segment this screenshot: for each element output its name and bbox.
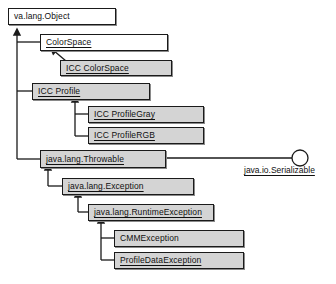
class-box-icc-profilergb[interactable]: ICC ProfileRGB	[88, 127, 204, 144]
class-name-icc-profilegray: ICC ProfileGray	[94, 110, 155, 119]
class-diagram-canvas: va.lang.Object ColorSpace ICC ColorSpace…	[0, 0, 336, 284]
generalization-icc-profile-children	[75, 99, 88, 136]
class-name-java-lang-throwable: java.lang.Throwable	[46, 155, 124, 164]
interface-name-java-io-serializable: java.io.Serializable	[244, 165, 315, 175]
class-name-java-lang-exception: java.lang.Exception	[68, 182, 144, 191]
class-box-cmmexception[interactable]: CMMException	[114, 230, 244, 247]
class-box-icc-profile[interactable]: ICC Profile	[32, 83, 150, 100]
class-name-cmmexception: CMMException	[120, 234, 179, 243]
class-name-java-lang-runtimeexception: java.lang.RuntimeException	[94, 208, 202, 217]
class-name-colorspace: ColorSpace	[46, 38, 91, 47]
class-name-profiledataexception: ProfileDataException	[120, 256, 201, 265]
class-name-java-lang-object: va.lang.Object	[14, 12, 70, 21]
class-name-icc-colorspace: ICC ColorSpace	[66, 64, 129, 73]
class-box-java-lang-exception[interactable]: java.lang.Exception	[62, 178, 194, 195]
class-name-icc-profile: ICC Profile	[38, 87, 80, 96]
generalization-exception-to-throwable	[48, 167, 62, 186]
generalization-runtimeexception-children	[101, 220, 114, 260]
class-box-java-lang-throwable[interactable]: java.lang.Throwable	[40, 150, 166, 168]
class-box-icc-profilegray[interactable]: ICC ProfileGray	[88, 106, 204, 123]
class-box-profiledataexception[interactable]: ProfileDataException	[114, 252, 244, 269]
class-box-java-lang-object[interactable]: va.lang.Object	[8, 8, 116, 25]
class-name-icc-profilergb: ICC ProfileRGB	[94, 131, 155, 140]
interface-realization-serializable	[166, 150, 308, 166]
class-box-java-lang-runtimeexception[interactable]: java.lang.RuntimeException	[88, 204, 214, 221]
class-box-colorspace[interactable]: ColorSpace	[40, 34, 168, 51]
class-box-icc-colorspace[interactable]: ICC ColorSpace	[60, 60, 172, 76]
generalization-runtimeexception-to-exception	[78, 194, 88, 212]
